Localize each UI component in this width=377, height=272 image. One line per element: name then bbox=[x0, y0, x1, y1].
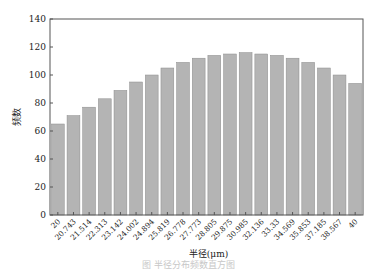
bar bbox=[255, 54, 268, 215]
y-axis: 020406080100120140 bbox=[29, 14, 53, 220]
y-tick-label: 0 bbox=[40, 210, 46, 220]
bar bbox=[333, 75, 346, 215]
y-axis-title: 频数 bbox=[11, 108, 22, 126]
bar bbox=[161, 68, 174, 215]
bar bbox=[317, 68, 330, 215]
y-tick-label: 100 bbox=[29, 70, 46, 80]
bar bbox=[286, 58, 299, 215]
bar bbox=[239, 53, 252, 215]
x-tick-label: 40 bbox=[346, 217, 359, 230]
x-axis: 2020.74321.51422.31323.14224.00224.89425… bbox=[49, 212, 360, 242]
bar bbox=[51, 124, 64, 215]
bar bbox=[83, 107, 96, 215]
y-tick-label: 80 bbox=[35, 98, 47, 108]
bar bbox=[302, 62, 315, 215]
bar bbox=[271, 55, 284, 215]
bar bbox=[208, 55, 221, 215]
figure-caption: 图 半径分布频数直方图 bbox=[0, 258, 377, 271]
bar bbox=[98, 99, 111, 215]
bar bbox=[67, 116, 80, 215]
y-tick-label: 40 bbox=[35, 154, 47, 164]
bar bbox=[145, 75, 158, 215]
bar-series bbox=[51, 53, 361, 215]
histogram-chart: 020406080100120140 2020.74321.51422.3132… bbox=[0, 0, 377, 272]
plot-frame bbox=[50, 19, 363, 215]
bar bbox=[224, 54, 237, 215]
bar bbox=[177, 62, 190, 215]
bar bbox=[130, 82, 143, 215]
bar bbox=[192, 58, 205, 215]
bar bbox=[349, 83, 362, 215]
bar bbox=[114, 90, 127, 215]
y-tick-label: 20 bbox=[35, 182, 47, 192]
y-tick-label: 60 bbox=[35, 126, 47, 136]
y-tick-label: 140 bbox=[29, 14, 46, 24]
y-tick-label: 120 bbox=[29, 42, 46, 52]
